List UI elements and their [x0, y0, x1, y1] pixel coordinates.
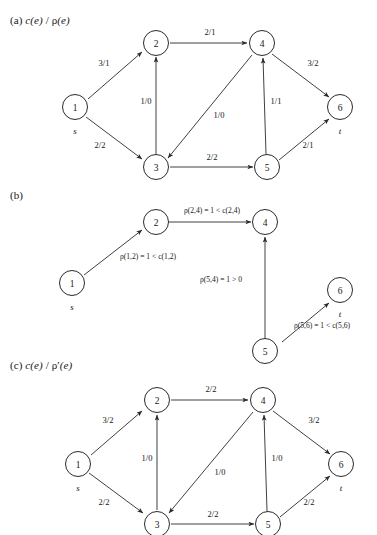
edge-1-2	[91, 411, 142, 455]
edge-label-1-3: 2/2	[95, 140, 106, 150]
node-1-label: 1	[70, 279, 75, 289]
edges-c	[89, 400, 330, 524]
node-5-label: 5	[265, 163, 270, 173]
node-2[interactable]: 2	[144, 210, 169, 235]
node-2-label: 2	[154, 218, 159, 228]
edge-label-4-6: 3/2	[309, 415, 320, 425]
node-6[interactable]: 6 t	[328, 95, 353, 137]
node-6-label: 6	[338, 103, 343, 113]
node-5-label: 5	[266, 520, 271, 530]
edge-label-2-4: 2/1	[205, 27, 216, 37]
node-4-label: 4	[260, 39, 265, 49]
edge-label-4-6: 3/2	[308, 58, 319, 68]
edge-label-4-3: 1/0	[215, 467, 226, 477]
edge-5-4	[264, 415, 267, 511]
node-1-label: 1	[76, 460, 81, 470]
edge-label-3-2: 1/0	[142, 453, 153, 463]
panel-b: (b) ρ(1,2) = 1 < c(1,2) ρ(2,4) = 1 < c(2…	[0, 180, 377, 345]
node-3-label: 3	[154, 163, 159, 173]
node-1-label: 1	[73, 103, 78, 113]
edge-label-3-2: 1/0	[141, 96, 152, 106]
node-1[interactable]: 1 s	[63, 95, 88, 137]
node-6[interactable]: 6 t	[329, 452, 354, 494]
node-1-sublabel: s	[70, 302, 74, 312]
edge-4-6	[272, 54, 329, 97]
node-1[interactable]: 1 s	[60, 271, 85, 313]
node-4[interactable]: 4	[251, 388, 276, 413]
node-2[interactable]: 2	[144, 31, 169, 56]
graph-a: 3/1 2/2 1/0 2/1 1/0 1/1 3/2 2/2 2/1 1 s …	[0, 0, 377, 180]
node-6-sublabel: t	[339, 126, 342, 136]
edge-label-1-2: 3/2	[103, 415, 114, 425]
edge-label-5-6: ρ(5,6) = 1 < c(5,6)	[294, 321, 351, 330]
node-5[interactable]: 5	[255, 155, 280, 180]
node-3[interactable]: 3	[144, 155, 169, 180]
edge-label-2-4: 2/2	[206, 384, 217, 394]
edges-a	[86, 43, 329, 167]
edge-label-5-6: 2/1	[303, 140, 314, 150]
graph-b: ρ(1,2) = 1 < c(1,2) ρ(2,4) = 1 < c(2,4) …	[0, 180, 377, 345]
node-2[interactable]: 2	[145, 388, 170, 413]
edge-label-5-6: 2/2	[304, 497, 315, 507]
edge-label-1-2: ρ(1,2) = 1 < c(1,2)	[120, 252, 177, 261]
panel-c: (c) c(e) / ρ′(e) 3/2 2/2 1/0 2/2 1/0 1/0…	[0, 345, 377, 535]
node-4[interactable]: 4	[253, 210, 278, 235]
edge-label-4-3: 1/0	[214, 110, 225, 120]
edge-label-2-4: ρ(2,4) = 1 < c(2,4)	[184, 206, 241, 215]
edge-label-3-5: 2/2	[207, 152, 218, 162]
edge-label-1-2: 3/1	[99, 58, 110, 68]
edge-5-4	[263, 58, 266, 154]
node-4-label: 4	[261, 396, 266, 406]
node-6[interactable]: 6 t	[328, 278, 353, 320]
node-4-label: 4	[263, 218, 268, 228]
node-1-sublabel: s	[73, 126, 77, 136]
node-6-label: 6	[338, 286, 343, 296]
node-3-label: 3	[155, 520, 160, 530]
node-1-sublabel: s	[76, 483, 80, 493]
edge-4-6	[273, 411, 330, 454]
edge-1-3	[89, 473, 143, 513]
node-2-label: 2	[155, 396, 160, 406]
edge-label-1-3: 2/2	[99, 497, 110, 507]
edge-4-3	[168, 55, 252, 158]
node-6-sublabel: t	[340, 483, 343, 493]
graph-c: 3/2 2/2 1/0 2/2 1/0 1/0 3/2 2/2 2/2 1 s …	[0, 345, 377, 535]
node-4[interactable]: 4	[250, 31, 275, 56]
edge-4-3	[169, 412, 253, 513]
node-5[interactable]: 5	[256, 512, 281, 535]
edge-label-5-4: 1/1	[271, 96, 282, 106]
edge-label-5-4: ρ(5,4) = 1 > 0	[200, 275, 242, 284]
panel-a: (a) c(e) / ρ(e) 3/1 2/2 1/0 2/1 1/0 1/1 …	[0, 0, 377, 180]
edge-1-3	[86, 117, 142, 159]
node-1[interactable]: 1 s	[66, 452, 91, 494]
edge-label-3-5: 2/2	[208, 509, 219, 519]
node-3[interactable]: 3	[145, 512, 170, 535]
edge-label-5-4: 1/0	[272, 453, 283, 463]
edge-1-2	[88, 52, 142, 99]
node-6-sublabel: t	[339, 309, 342, 319]
node-2-label: 2	[154, 39, 159, 49]
node-6-label: 6	[339, 460, 344, 470]
